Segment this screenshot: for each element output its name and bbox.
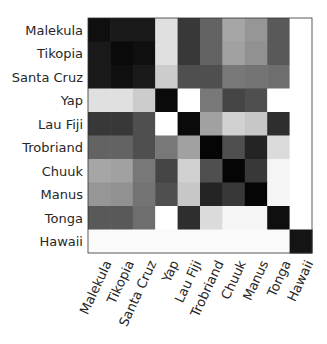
heatmap-cell — [110, 42, 133, 66]
heatmap-cell — [178, 112, 201, 136]
heatmap-cell — [245, 183, 268, 207]
heatmap-cells — [88, 18, 313, 254]
heatmap-cell — [155, 206, 178, 230]
heatmap-cell — [88, 65, 111, 89]
heatmap-cell — [267, 65, 290, 89]
heatmap-cell — [155, 230, 178, 254]
heatmap-cell — [110, 112, 133, 136]
heatmap-cell — [88, 183, 111, 207]
heatmap-cell — [245, 112, 268, 136]
heatmap-cell — [110, 89, 133, 113]
heatmap-cell — [200, 89, 223, 113]
heatmap-cell — [88, 136, 111, 160]
heatmap-cell — [222, 206, 245, 230]
heatmap-cell — [245, 230, 268, 254]
heatmap-cell — [222, 159, 245, 183]
heatmap-cell — [88, 42, 111, 66]
heatmap-cell — [155, 159, 178, 183]
heatmap-cell — [110, 159, 133, 183]
heatmap-cell — [245, 65, 268, 89]
heatmap-cell — [267, 206, 290, 230]
heatmap-cell — [267, 18, 290, 42]
heatmap-cell — [267, 159, 290, 183]
heatmap-cell — [267, 230, 290, 254]
heatmap-cell — [200, 183, 223, 207]
y-tick-label: Santa Cruz — [12, 70, 83, 85]
heatmap-cell — [88, 206, 111, 230]
heatmap-cell — [245, 18, 268, 42]
y-tick-label: Chuuk — [42, 164, 84, 179]
heatmap-cell — [133, 89, 156, 113]
y-tick-label: Yap — [60, 93, 83, 108]
heatmap-cell — [200, 159, 223, 183]
heatmap-cell — [155, 65, 178, 89]
heatmap-cell — [178, 89, 201, 113]
heatmap-cell — [290, 159, 313, 183]
heatmap-cell — [222, 42, 245, 66]
heatmap-cell — [178, 65, 201, 89]
heatmap-cell — [290, 65, 313, 89]
heatmap-cell — [267, 136, 290, 160]
heatmap-cell — [290, 112, 313, 136]
y-tick-labels: MalekulaTikopiaSanta CruzYapLau FijiTrob… — [12, 23, 84, 250]
heatmap-cell — [178, 18, 201, 42]
heatmap-cell — [133, 65, 156, 89]
heatmap-cell — [290, 183, 313, 207]
heatmap-cell — [200, 18, 223, 42]
heatmap-cell — [133, 112, 156, 136]
heatmap-cell — [133, 136, 156, 160]
heatmap-cell — [290, 136, 313, 160]
x-tick-label: Yap — [158, 258, 181, 286]
heatmap-chart: MalekulaTikopiaSanta CruzYapLau FijiTrob… — [0, 0, 327, 344]
heatmap-cell — [222, 89, 245, 113]
y-tick-label: Trobriand — [21, 140, 83, 155]
heatmap-cell — [245, 89, 268, 113]
heatmap-cell — [88, 230, 111, 254]
heatmap-cell — [222, 183, 245, 207]
heatmap-cell — [290, 206, 313, 230]
heatmap-cell — [222, 136, 245, 160]
heatmap-cell — [290, 230, 313, 254]
heatmap-cell — [110, 18, 133, 42]
heatmap-cell — [200, 206, 223, 230]
heatmap-cell — [110, 183, 133, 207]
heatmap-cell — [110, 65, 133, 89]
y-tick-label: Hawaii — [39, 234, 83, 249]
heatmap-cell — [155, 42, 178, 66]
heatmap-cell — [178, 42, 201, 66]
heatmap-cell — [245, 136, 268, 160]
heatmap-cell — [88, 112, 111, 136]
x-tick-labels: MalekulaTikopiaSanta CruzYapLau FijiTrob… — [77, 258, 317, 329]
heatmap-cell — [267, 42, 290, 66]
heatmap-cell — [222, 112, 245, 136]
heatmap-cell — [290, 89, 313, 113]
heatmap-cell — [178, 183, 201, 207]
heatmap-cell — [200, 42, 223, 66]
y-tick-label: Tonga — [44, 211, 83, 226]
heatmap-cell — [155, 89, 178, 113]
heatmap-cell — [88, 159, 111, 183]
heatmap-cell — [245, 42, 268, 66]
heatmap-cell — [133, 206, 156, 230]
heatmap-cell — [178, 159, 201, 183]
heatmap-cell — [133, 18, 156, 42]
heatmap-cell — [133, 159, 156, 183]
heatmap-cell — [222, 18, 245, 42]
heatmap-cell — [155, 112, 178, 136]
heatmap-cell — [245, 159, 268, 183]
heatmap-cell — [133, 183, 156, 207]
heatmap-cell — [267, 89, 290, 113]
y-tick-label: Lau Fiji — [38, 117, 83, 132]
heatmap-cell — [222, 230, 245, 254]
y-tick-label: Manus — [41, 187, 84, 202]
heatmap-cell — [200, 230, 223, 254]
heatmap-cell — [110, 136, 133, 160]
heatmap-cell — [110, 206, 133, 230]
heatmap-cell — [245, 206, 268, 230]
heatmap-cell — [267, 183, 290, 207]
y-tick-label: Malekula — [25, 23, 83, 38]
heatmap-cell — [133, 42, 156, 66]
heatmap-cell — [178, 230, 201, 254]
heatmap-cell — [155, 183, 178, 207]
heatmap-cell — [267, 112, 290, 136]
